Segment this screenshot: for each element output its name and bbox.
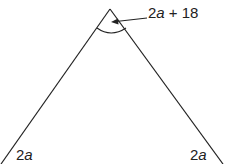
left-side bbox=[1, 9, 110, 164]
apex-angle-label: 2a + 18 bbox=[148, 4, 198, 21]
apex-angle-arc bbox=[97, 28, 126, 33]
arrow-head-icon bbox=[111, 19, 119, 25]
bottom-right-angle-label: 2a bbox=[190, 146, 207, 163]
triangle-diagram: 2a + 18 2a 2a bbox=[0, 0, 229, 164]
pointer-arrow-line bbox=[116, 18, 147, 22]
right-side bbox=[110, 9, 223, 164]
bottom-left-angle-label: 2a bbox=[16, 146, 33, 163]
